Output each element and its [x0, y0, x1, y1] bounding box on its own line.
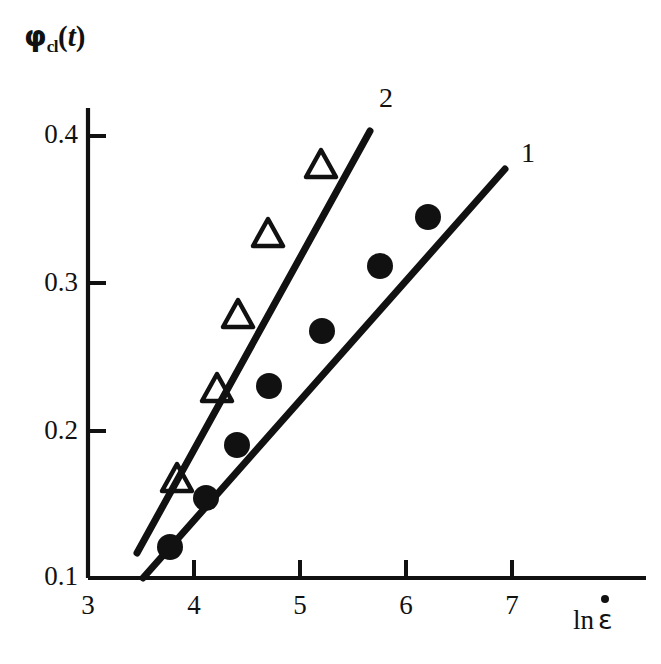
ln-text: ln [573, 605, 594, 635]
x-axis-ticks [194, 560, 512, 578]
data-point [309, 318, 335, 344]
curve-1-fit-line [143, 169, 505, 578]
plot-area [0, 0, 661, 664]
dot-accent-icon [601, 595, 609, 603]
data-point [367, 253, 393, 279]
y-tick-label-0.4: 0.4 [8, 121, 78, 148]
data-point [306, 150, 336, 177]
data-point [223, 300, 253, 327]
x-tick-label-6: 6 [386, 592, 426, 619]
data-point [415, 204, 441, 230]
x-tick-label-5: 5 [280, 592, 320, 619]
phi-symbol: φ [24, 19, 47, 53]
data-point [224, 432, 250, 458]
data-point [256, 373, 282, 399]
x-axis-title: lnε [573, 606, 613, 634]
figure-container: φcl(t) 0.4 0.3 0.2 0.1 3 4 5 6 7 lnε 1 2 [0, 0, 661, 664]
y-tick-label-0.2: 0.2 [8, 417, 78, 444]
x-tick-label-4: 4 [174, 592, 214, 619]
t-variable: t [68, 20, 76, 52]
data-point [157, 534, 183, 560]
data-point [193, 485, 219, 511]
axis-lines [88, 108, 646, 578]
y-axis-ticks [88, 136, 106, 431]
x-tick-label-7: 7 [492, 592, 532, 619]
epsilon-letter: ε [598, 604, 613, 635]
y-axis-title: φcl(t) [24, 22, 85, 55]
y-tick-label-0.1: 0.1 [8, 563, 78, 590]
epsilon-dot-symbol: ε [598, 606, 613, 633]
y-tick-label-0.3: 0.3 [8, 269, 78, 296]
phi-subscript: cl [47, 37, 58, 56]
x-tick-label-3: 3 [68, 592, 108, 619]
data-point [253, 219, 283, 246]
curve-label-2: 2 [379, 84, 393, 112]
curve-label-1: 1 [521, 139, 535, 167]
curve-2-markers [162, 150, 336, 491]
open-paren: ( [58, 20, 68, 52]
close-paren: ) [76, 20, 86, 52]
